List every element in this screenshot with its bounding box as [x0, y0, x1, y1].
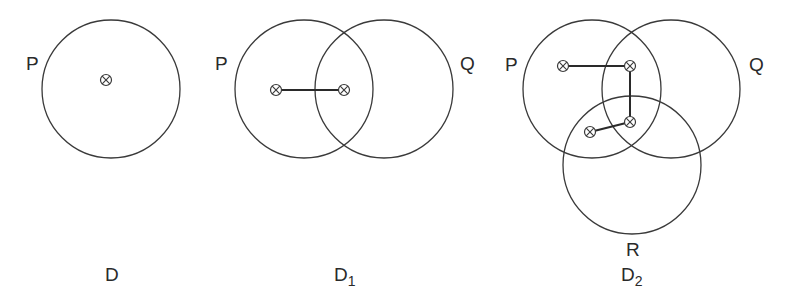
diagram-canvas: PDPQD1PQRD2 [0, 0, 788, 303]
circle-q [602, 20, 740, 158]
overlap-diagrams: PDPQD1PQRD2 [0, 0, 788, 303]
crossed-circle-marker-icon [625, 117, 636, 128]
crossed-circle-marker-icon [558, 61, 569, 72]
circle-p [42, 20, 180, 158]
diagram-d2: PQRD2 [505, 20, 764, 289]
crossed-circle-marker-icon [339, 85, 350, 96]
circle-label-p: P [215, 53, 228, 74]
crossed-circle-marker-icon [625, 61, 636, 72]
circle-label-q: Q [749, 54, 764, 75]
diagram-d1: PQD1 [215, 20, 475, 289]
crossed-circle-marker-icon [585, 127, 596, 138]
diagram-caption: D1 [334, 264, 356, 289]
circle-label-q: Q [460, 53, 475, 74]
circle-label-p: P [26, 53, 39, 74]
crossed-circle-marker-icon [271, 85, 282, 96]
connector-line [590, 122, 630, 132]
circle-label-r: R [626, 239, 640, 260]
diagram-d: PD [26, 20, 180, 285]
diagram-caption: D [105, 264, 119, 285]
diagram-caption: D2 [621, 264, 643, 289]
circle-label-p: P [505, 54, 518, 75]
crossed-circle-marker-icon [101, 75, 112, 86]
